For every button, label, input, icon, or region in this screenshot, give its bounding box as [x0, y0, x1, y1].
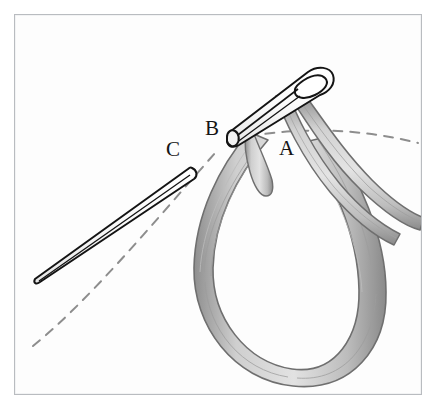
diagram-label-b: B [205, 118, 219, 139]
lower-needle-inner-line [39, 175, 190, 281]
diagram-label-a: A [279, 138, 294, 159]
lower-needle-body [34, 168, 196, 284]
needle-thread-illustration [0, 0, 440, 410]
lower-needle [34, 168, 196, 284]
diagram-label-c: C [166, 139, 180, 160]
upper-needle-blunt-end [227, 130, 239, 146]
figure-root: A B C [0, 0, 440, 410]
